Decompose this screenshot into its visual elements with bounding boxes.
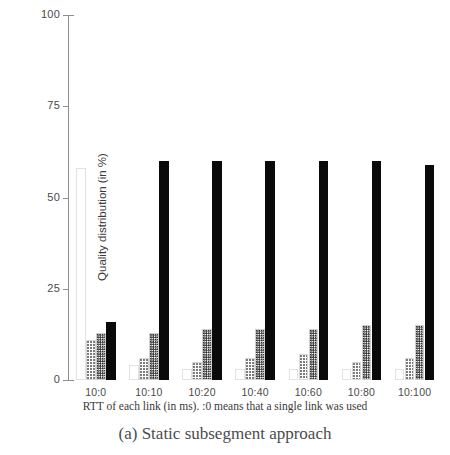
bar <box>129 365 139 380</box>
bar <box>352 362 362 380</box>
bar <box>245 358 255 380</box>
x-axis-tick-label: 10:100 <box>385 386 445 398</box>
x-axis-tick-label: 10:80 <box>331 386 391 398</box>
bar-group <box>129 15 169 380</box>
bar-group <box>395 15 435 380</box>
bar <box>159 161 169 380</box>
x-axis-tick-label: 10:0 <box>66 386 126 398</box>
bar <box>425 165 435 380</box>
bar <box>362 325 372 380</box>
x-axis-tick-label: 10:20 <box>172 386 232 398</box>
bar-group <box>289 15 329 380</box>
bar <box>415 325 425 380</box>
figure-caption: (a) Static subsegment approach <box>0 424 450 444</box>
bar-group <box>342 15 382 380</box>
bar <box>342 369 352 380</box>
bar <box>299 354 309 380</box>
bar-group <box>76 15 116 380</box>
y-axis-tick-label: 50 <box>20 191 60 203</box>
bar <box>86 340 96 380</box>
x-axis-tick-label: 10:40 <box>225 386 285 398</box>
y-axis-tick-label: 25 <box>20 282 60 294</box>
y-axis-tick-label: 0 <box>20 373 60 385</box>
bar <box>255 329 265 380</box>
y-axis-tick <box>63 380 69 381</box>
plot-area: Quality distribution (in %) <box>68 15 440 380</box>
bar <box>76 168 86 380</box>
bar <box>405 358 415 380</box>
bar <box>149 333 159 380</box>
figure-static-subsegment-approach: 0255075100 Quality distribution (in %) 1… <box>0 0 450 455</box>
y-axis-tick-label: 100 <box>20 8 60 20</box>
x-axis-tick-label: 10:60 <box>278 386 338 398</box>
y-axis-tick-label: 75 <box>20 99 60 111</box>
bar <box>319 161 329 380</box>
bar <box>182 369 192 380</box>
bar <box>106 322 116 380</box>
bar <box>192 362 202 380</box>
bar <box>139 358 149 380</box>
bar <box>309 329 319 380</box>
bar <box>395 369 405 380</box>
bar <box>289 369 299 380</box>
bar <box>212 161 222 380</box>
bar <box>96 333 106 380</box>
bar <box>235 369 245 380</box>
bar-group <box>235 15 275 380</box>
bar <box>265 161 275 380</box>
bar <box>372 161 382 380</box>
bar-group <box>182 15 222 380</box>
bar <box>202 329 212 380</box>
x-axis-title: RTT of each link (in ms). :0 means that … <box>0 400 450 412</box>
x-axis-tick-label: 10:10 <box>119 386 179 398</box>
